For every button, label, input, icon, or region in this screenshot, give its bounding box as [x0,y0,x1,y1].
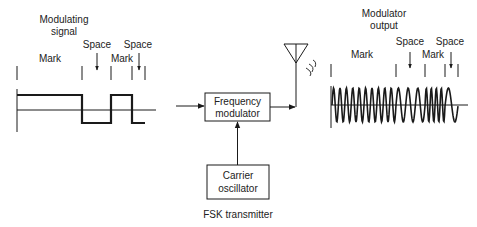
modulating-signal-panel: Modulating signal Mark Space Mark Space [17,14,156,132]
frequency-modulator-label-2: modulator [215,108,260,119]
bit-boundary-ticks [17,66,145,80]
square-wave [17,95,145,123]
carrier-oscillator-label-2: oscillator [218,183,258,194]
output-space-label-1: Space [396,36,425,47]
space-label-1: Space [83,39,112,50]
mark-label-2: Mark [111,53,134,64]
output-mark-label-1: Mark [351,49,374,60]
carrier-oscillator-label-1: Carrier [223,170,254,181]
modulator-output-panel: Modulator output Mark Space Mark Space [331,8,468,128]
frequency-modulator-label-1: Frequency [214,96,261,107]
output-bit-boundary-ticks [331,64,458,77]
output-mark-label-2: Mark [422,49,445,60]
transmitter-blocks: Frequency modulator Carrier oscillator F… [176,44,316,220]
antenna-icon [284,44,308,63]
fsk-transmitter-diagram: Modulating signal Mark Space Mark Space … [0,0,477,227]
modulator-output-title: Modulator [362,8,407,19]
mark-label-1: Mark [39,53,62,64]
output-space-label-2: Space [436,36,465,47]
diagram-caption: FSK transmitter [203,209,273,220]
space-label-2: Space [124,39,153,50]
modulating-signal-title: Modulating [40,14,89,25]
modulating-signal-title-2: signal [51,26,77,37]
modulator-output-title-2: output [370,20,398,31]
radio-waves-icon [306,60,316,76]
